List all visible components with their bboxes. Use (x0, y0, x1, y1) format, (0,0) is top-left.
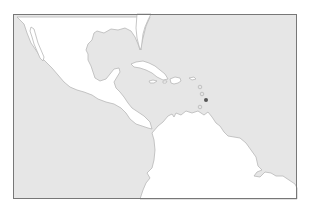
island-marker (198, 85, 202, 89)
caribbean-map (0, 0, 311, 207)
land-small-island (163, 81, 167, 83)
island-marker (200, 92, 204, 96)
island-marker (198, 105, 202, 109)
highlighted-island-dot (204, 98, 208, 102)
